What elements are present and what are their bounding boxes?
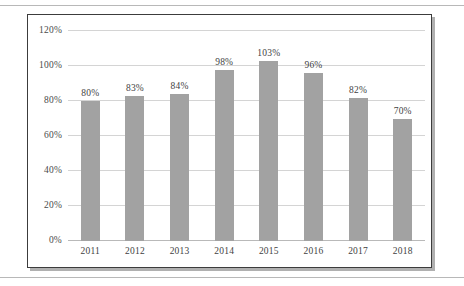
bar-slot: 80% 2011 bbox=[68, 31, 113, 241]
ytick-label-40: 40% bbox=[44, 165, 62, 175]
bar-slot: 98% 2014 bbox=[202, 31, 247, 241]
ytick-label-80: 80% bbox=[44, 95, 62, 105]
page-rule-bottom bbox=[0, 277, 464, 278]
bar-value-label: 82% bbox=[349, 85, 367, 95]
bar-2011[interactable]: 80% bbox=[81, 101, 100, 241]
chart-frame: 0% 20% 40% 60% 80% 100% 120% 80% 2011 bbox=[27, 14, 432, 268]
xtick-label-2011: 2011 bbox=[81, 246, 100, 256]
ytick-label-20: 20% bbox=[44, 200, 62, 210]
ytick-label-0: 0% bbox=[49, 235, 62, 245]
bar-slot: 83% 2012 bbox=[113, 31, 158, 241]
xtick-label-2018: 2018 bbox=[393, 246, 413, 256]
xtick-label-2015: 2015 bbox=[259, 246, 279, 256]
page-rule-top bbox=[0, 5, 464, 6]
bar-value-label: 98% bbox=[215, 57, 233, 67]
bar-2015[interactable]: 103% bbox=[259, 61, 278, 241]
xtick-label-2012: 2012 bbox=[125, 246, 145, 256]
xtick-label-2013: 2013 bbox=[170, 246, 190, 256]
bar-value-label: 84% bbox=[171, 81, 189, 91]
bar-value-label: 96% bbox=[304, 60, 322, 70]
bar-2016[interactable]: 96% bbox=[304, 73, 323, 241]
plot-area: 0% 20% 40% 60% 80% 100% 120% 80% 2011 bbox=[68, 31, 425, 241]
xtick-label-2017: 2017 bbox=[348, 246, 368, 256]
ytick-label-120: 120% bbox=[39, 25, 62, 35]
bar-slot: 96% 2016 bbox=[291, 31, 336, 241]
bar-2017[interactable]: 82% bbox=[349, 98, 368, 242]
bar-series: 80% 2011 83% 2012 84% 2013 98% 20 bbox=[68, 31, 425, 241]
ytick-label-60: 60% bbox=[44, 130, 62, 140]
xtick-label-2016: 2016 bbox=[304, 246, 324, 256]
xtick-label-2014: 2014 bbox=[214, 246, 234, 256]
bar-2018[interactable]: 70% bbox=[393, 119, 412, 242]
bar-2012[interactable]: 83% bbox=[125, 96, 144, 241]
bar-slot: 70% 2018 bbox=[380, 31, 425, 241]
ytick-label-100: 100% bbox=[39, 60, 62, 70]
bar-value-label: 103% bbox=[257, 48, 280, 58]
bar-slot: 84% 2013 bbox=[157, 31, 202, 241]
bar-slot: 103% 2015 bbox=[247, 31, 292, 241]
bar-value-label: 70% bbox=[394, 106, 412, 116]
bar-2014[interactable]: 98% bbox=[215, 70, 234, 242]
bar-value-label: 83% bbox=[126, 83, 144, 93]
bar-slot: 82% 2017 bbox=[336, 31, 381, 241]
bar-value-label: 80% bbox=[81, 88, 99, 98]
bar-2013[interactable]: 84% bbox=[170, 94, 189, 241]
